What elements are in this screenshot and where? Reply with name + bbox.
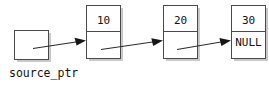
source-ptr-box bbox=[15, 31, 49, 60]
node-2-data-value: 20 bbox=[174, 14, 187, 27]
node-3-next-value: NULL bbox=[235, 36, 262, 49]
node-3-data-value: 30 bbox=[242, 14, 255, 27]
node-1-data-value: 10 bbox=[97, 14, 110, 27]
source-ptr-label: source_ptr bbox=[9, 66, 78, 80]
linked-list-diagram: 10 20 30 NULL source_ptr bbox=[0, 0, 269, 86]
